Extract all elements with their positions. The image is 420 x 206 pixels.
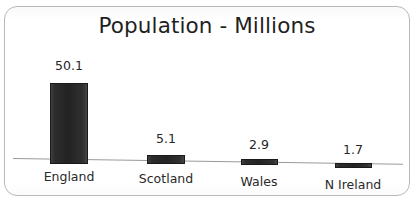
bar-wales[interactable] <box>241 159 278 165</box>
bar-scotland[interactable] <box>147 155 185 164</box>
bar-group-n-ireland: 1.7 N Ireland <box>307 7 399 196</box>
chart-frame: Population - Millions 50.1 England 5.1 S… <box>4 6 410 196</box>
bar-n-ireland[interactable] <box>335 163 372 168</box>
bar-value-wales: 2.9 <box>213 137 305 152</box>
plot-area: 50.1 England 5.1 Scotland 2.9 Wales 1.7 … <box>5 7 410 196</box>
bar-group-england: 50.1 England <box>23 7 115 196</box>
bar-value-scotland: 5.1 <box>120 131 212 146</box>
category-label-england: England <box>14 169 124 184</box>
bar-group-scotland: 5.1 Scotland <box>120 7 212 196</box>
bar-value-england: 50.1 <box>23 58 115 73</box>
category-label-n-ireland: N Ireland <box>298 177 408 192</box>
bar-group-wales: 2.9 Wales <box>213 7 305 196</box>
bar-england[interactable] <box>50 83 88 164</box>
bar-value-n-ireland: 1.7 <box>307 142 399 157</box>
